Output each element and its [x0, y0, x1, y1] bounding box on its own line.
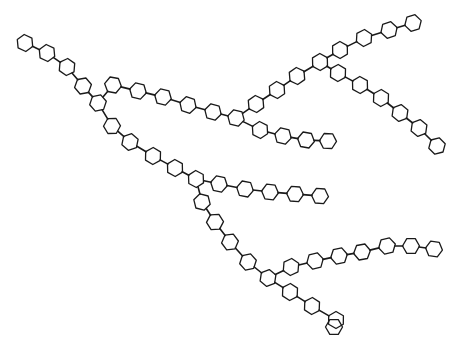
benzene-ring: [252, 122, 267, 139]
benzene-ring: [333, 42, 348, 59]
ring-bond: [387, 103, 393, 108]
benzene-ring: [283, 259, 298, 276]
benzene-ring: [75, 78, 92, 94]
ring-bond: [137, 146, 146, 152]
ring-bond: [284, 81, 291, 86]
benzene-ring: [392, 105, 408, 122]
benzene-ring: [194, 194, 210, 210]
ring-bond: [372, 33, 382, 36]
ring-bond: [171, 100, 181, 103]
benzene-ring: [228, 110, 244, 126]
ring-bond: [103, 91, 108, 97]
benzene-ring: [405, 15, 421, 32]
benzene-ring: [426, 241, 443, 257]
benzene-ring: [39, 45, 54, 62]
benzene-ring: [429, 138, 445, 154]
benzene-ring: [17, 35, 32, 52]
ring-bond: [220, 229, 225, 236]
ring-bond: [102, 110, 108, 119]
benzene-ring: [312, 188, 329, 203]
ring-bond: [304, 66, 313, 72]
ring-bond: [275, 271, 283, 275]
benzene-ring: [237, 181, 254, 197]
benzene-ring: [403, 239, 420, 254]
benzene-ring: [287, 186, 304, 201]
ring-bond: [367, 89, 374, 93]
benzene-ring: [289, 68, 304, 85]
benzene-ring: [269, 82, 284, 99]
ring-bond: [198, 187, 200, 194]
benzene-ring: [331, 248, 348, 264]
benzene-ring: [59, 59, 74, 76]
benzene-ring: [130, 83, 147, 99]
benzene-ring: [356, 30, 371, 47]
ring-bond: [406, 118, 412, 123]
ring-bond: [118, 131, 124, 136]
benzene-ring: [248, 96, 263, 113]
ring-bond: [253, 190, 262, 191]
benzene-ring: [381, 22, 397, 39]
ring-bond: [345, 77, 353, 81]
benzene-ring: [305, 298, 320, 315]
benzene-ring: [411, 120, 427, 137]
ring-bond: [347, 42, 357, 47]
ring-bond: [303, 195, 312, 196]
ring-bond: [206, 209, 210, 215]
ring-bond: [347, 253, 354, 254]
benzene-ring: [275, 128, 291, 144]
benzene-ring: [240, 254, 257, 270]
ring-bond: [254, 267, 261, 273]
bond-layer: [32, 25, 431, 316]
ring-bond: [275, 282, 283, 287]
ring-bond: [299, 263, 307, 265]
benzene-ring: [168, 160, 183, 177]
benzene-ring: [90, 95, 107, 111]
benzene-ring: [283, 284, 298, 301]
ring-bond: [243, 122, 253, 127]
ring-bond: [243, 109, 250, 114]
ring-bond: [319, 310, 329, 316]
benzene-ring: [374, 90, 389, 107]
ring-bond: [160, 160, 168, 164]
benzene-ring: [262, 184, 279, 200]
benzene-ring: [211, 176, 228, 192]
benzene-ring: [105, 77, 122, 93]
ring-bond: [278, 193, 287, 194]
benzene-ring: [122, 134, 138, 151]
ring-bond: [323, 258, 331, 260]
benzene-ring: [379, 238, 396, 254]
ring-bond: [121, 87, 130, 89]
benzene-ring: [146, 148, 161, 165]
polyphenylene-structure-diagram: [0, 0, 453, 353]
ring-bond: [397, 25, 405, 27]
ring-bond: [425, 134, 432, 141]
ring-bond: [227, 186, 237, 188]
benzene-ring: [222, 234, 239, 250]
ring-bond: [268, 132, 275, 134]
ring-bond: [54, 58, 61, 63]
benzene-ring: [205, 104, 221, 120]
ring-bond: [419, 247, 426, 248]
ring-bond: [370, 248, 379, 250]
benzene-ring: [307, 253, 323, 269]
benzene-ring: [354, 244, 371, 260]
ring-bond: [196, 107, 205, 110]
ring-bond: [182, 172, 189, 176]
benzene-ring: [155, 89, 172, 105]
ring-bond: [204, 181, 211, 183]
benzene-ring: [180, 97, 196, 114]
benzene-ring: [189, 171, 204, 188]
benzene-ring: [207, 214, 224, 229]
ring-bond: [235, 248, 242, 256]
benzene-ring: [298, 132, 315, 148]
benzene-ring: [260, 270, 276, 287]
benzene-ring: [104, 119, 121, 134]
ring-bond: [297, 296, 305, 301]
ring-layer: [17, 15, 445, 335]
benzene-ring: [320, 134, 337, 149]
ring-bond: [291, 137, 298, 138]
benzene-ring: [331, 65, 346, 82]
ring-bond: [263, 95, 271, 100]
ring-bond: [221, 114, 228, 116]
benzene-ring: [353, 77, 368, 94]
